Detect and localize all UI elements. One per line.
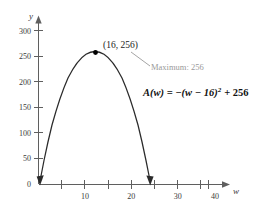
- x-tick-label-20: 20: [127, 192, 135, 201]
- equation-rhs: + 256: [224, 87, 248, 98]
- plot-canvas: y 300 250 200 150 100 50 0 w: [0, 0, 269, 218]
- y-tick-label-250: 250: [19, 52, 31, 61]
- parabola-curve: [41, 52, 150, 179]
- y-tick-label-300: 300: [19, 27, 31, 36]
- vertex-point-marker: [93, 50, 98, 55]
- maximum-callout-leader: [131, 52, 150, 66]
- x-axis-label: w: [233, 186, 239, 196]
- y-tick-label-200: 200: [19, 78, 31, 87]
- equation-lhs: A(w) = −(w − 16): [142, 87, 218, 99]
- y-tick-label-50: 50: [23, 154, 31, 163]
- y-tick-label-0: 0: [27, 180, 31, 189]
- y-axis-arrowhead: [35, 16, 41, 24]
- x-tick-label-10: 10: [81, 192, 89, 201]
- y-axis-group: y 300 250 200 150 100 50 0: [19, 11, 43, 189]
- parabola-curve-group: [37, 52, 154, 186]
- y-tick-label-150: 150: [19, 103, 31, 112]
- x-tick-label-40: 40: [211, 192, 219, 201]
- right-branch-arrowhead: [146, 175, 153, 185]
- vertex-coordinate-label: (16, 256): [103, 40, 138, 51]
- maximum-callout-label: Maximum: 256: [151, 62, 204, 72]
- left-branch-arrowhead: [37, 175, 44, 185]
- y-tick-label-100: 100: [19, 129, 31, 138]
- x-axis-arrowhead: [222, 181, 230, 187]
- equation-exponent: 2: [217, 86, 222, 94]
- x-tick-label-30: 30: [174, 192, 182, 201]
- x-axis-group: w 10 20 30 40: [39, 180, 240, 201]
- y-axis-label: y: [28, 11, 33, 21]
- function-equation-label: A(w) = −(w − 16)2+ 256: [142, 86, 249, 99]
- parabola-figure: y 300 250 200 150 100 50 0 w: [0, 0, 269, 218]
